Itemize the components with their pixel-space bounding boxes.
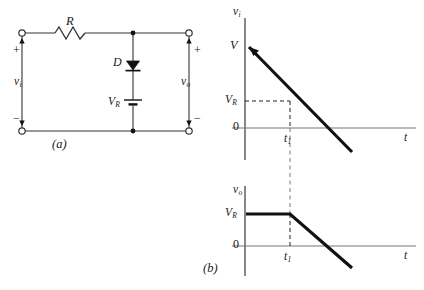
vo-ytick-VR: VR [225, 207, 237, 220]
vi-xtick-t1: t1 [284, 133, 291, 146]
caption-a: (a) [52, 138, 67, 151]
chart-input-waveform [232, 18, 416, 160]
vi-ytick-V: V [230, 39, 238, 52]
resistor-label: R [66, 15, 74, 28]
polarity-minus-output: − [194, 112, 201, 124]
diode-label: D [113, 56, 122, 68]
vi-ytick-zero: 0 [233, 120, 239, 132]
figure-root: R D VR vi vo + − + − (a) vi V VR 0 t1 t … [0, 0, 424, 290]
vo-waveform-line [246, 214, 352, 268]
polarity-minus-input: − [13, 112, 20, 124]
terminal-output-bottom [186, 128, 192, 134]
polarity-arrow-input-bottom [19, 121, 24, 127]
vo-xtick-t1: t1 [284, 251, 291, 264]
vi-ytick-VR: VR [225, 94, 237, 107]
vi-waveform-line [249, 47, 352, 152]
battery-label: VR [108, 96, 120, 109]
polarity-arrow-input-top [19, 38, 24, 44]
vo-axis-label: vo [233, 184, 242, 197]
terminal-input-top [19, 30, 25, 36]
polarity-arrow-output-bottom [186, 121, 191, 127]
polarity-plus-input: + [13, 44, 20, 56]
diode-icon [127, 61, 140, 70]
resistor-symbol [55, 27, 85, 39]
chart-output-waveform [232, 186, 416, 276]
input-voltage-label: vi [14, 76, 22, 89]
circuit-diagram [19, 27, 192, 134]
caption-b: (b) [203, 262, 218, 275]
terminal-output-top [186, 30, 192, 36]
junction-node-bottom [131, 129, 136, 134]
vo-xaxis-label: t [404, 250, 407, 262]
polarity-plus-output: + [194, 44, 201, 56]
vi-axis-label: vi [233, 6, 241, 19]
polarity-arrow-output-top [186, 38, 191, 44]
vi-xaxis-label: t [404, 132, 407, 144]
output-voltage-label: vo [181, 76, 190, 89]
vo-ytick-zero: 0 [233, 238, 239, 250]
junction-node-top [131, 31, 136, 36]
terminal-input-bottom [19, 128, 25, 134]
